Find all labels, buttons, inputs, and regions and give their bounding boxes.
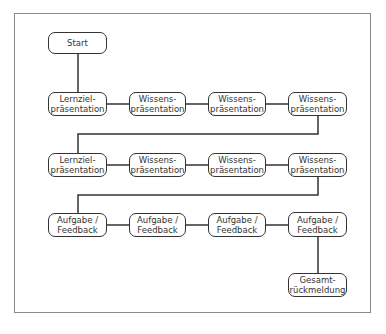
node-lernzielpraesentation: Lernziel- präsentation xyxy=(48,153,107,177)
node-wissenspraesentation: Wissens- präsentation xyxy=(288,153,347,177)
node-wissenspraesentation: Wissens- präsentation xyxy=(288,92,347,116)
node-aufgabe-feedback: Aufgabe / Feedback xyxy=(129,213,186,237)
node-wissenspraesentation: Wissens- präsentation xyxy=(129,92,186,116)
node-gesamtrueckmeldung: Gesamt- rückmeldung xyxy=(288,273,347,297)
node-wissenspraesentation: Wissens- präsentation xyxy=(129,153,186,177)
node-aufgabe-feedback: Aufgabe / Feedback xyxy=(208,213,266,237)
node-start: Start xyxy=(48,32,107,54)
node-wissenspraesentation: Wissens- präsentation xyxy=(208,92,266,116)
node-aufgabe-feedback: Aufgabe / Feedback xyxy=(48,213,107,237)
node-wissenspraesentation: Wissens- präsentation xyxy=(208,153,266,177)
node-lernzielpraesentation: Lernziel- präsentation xyxy=(48,92,107,116)
node-aufgabe-feedback: Aufgabe / Feedback xyxy=(288,212,347,237)
